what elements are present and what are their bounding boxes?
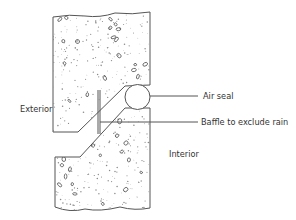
concrete-speck [121,104,122,105]
concrete-speck [104,146,105,147]
concrete-speck [60,14,61,15]
concrete-speck [94,138,95,139]
concrete-speck [80,191,81,192]
concrete-speck [90,168,91,169]
concrete-speck [90,163,91,164]
concrete-speck [123,202,124,203]
concrete-speck [100,161,101,162]
concrete-speck [73,59,74,60]
concrete-speck [53,87,54,88]
concrete-speck [113,42,114,43]
concrete-speck [147,21,148,22]
concrete-speck [68,155,70,157]
concrete-speck [130,136,132,138]
concrete-speck [127,181,128,182]
concrete-speck [108,180,109,181]
concrete-speck [93,163,94,164]
concrete-speck [136,162,137,163]
concrete-speck [62,138,63,139]
concrete-speck [118,55,119,56]
concrete-speck [60,124,61,125]
concrete-speck [118,144,119,145]
concrete-speck [126,20,127,21]
concrete-speck [65,13,66,14]
concrete-speck [53,55,54,56]
concrete-speck [60,118,61,119]
concrete-speck [139,53,140,54]
concrete-speck [59,172,60,173]
concrete-speck [129,143,130,144]
concrete-speck [121,105,122,106]
concrete-speck [108,208,109,209]
concrete-speck [62,106,64,108]
concrete-speck [118,18,119,19]
concrete-speck [89,129,90,130]
concrete-speck [75,48,76,49]
concrete-speck [124,52,126,54]
concrete-speck [114,193,116,195]
concrete-speck [142,116,143,117]
concrete-speck [101,119,102,120]
concrete-speck [123,24,124,25]
concrete-speck [57,56,58,57]
concrete-speck [61,207,62,208]
concrete-speck [87,174,88,175]
concrete-speck [147,149,148,150]
concrete-speck [69,45,70,46]
concrete-speck [137,167,138,168]
concrete-speck [109,27,110,28]
concrete-speck [127,54,128,55]
concrete-speck [64,51,65,52]
concrete-speck [95,189,96,190]
concrete-speck [130,145,131,146]
concrete-speck [124,44,126,46]
concrete-speck [116,171,117,172]
concrete-speck [148,44,149,45]
concrete-speck [140,79,141,80]
concrete-speck [148,164,149,165]
concrete-speck [66,136,67,137]
concrete-speck [106,165,108,167]
concrete-speck [62,88,64,90]
concrete-speck [67,97,68,98]
concrete-speck [146,133,147,134]
concrete-speck [57,192,58,193]
concrete-speck [107,71,108,72]
concrete-speck [91,44,92,45]
concrete-speck [74,59,75,60]
concrete-speck [76,18,77,19]
concrete-speck [130,188,131,189]
concrete-speck [125,89,126,90]
concrete-speck [101,176,102,177]
concrete-speck [105,93,106,94]
concrete-speck [98,174,99,175]
concrete-speck [75,101,76,102]
concrete-speck [125,106,126,107]
concrete-speck [113,113,114,114]
concrete-speck [137,146,138,147]
concrete-speck [62,117,63,118]
concrete-speck [126,23,127,24]
concrete-speck [68,12,69,13]
concrete-speck [133,33,134,34]
concrete-speck [76,32,77,33]
concrete-speck [66,203,67,204]
concrete-speck [118,99,120,101]
concrete-speck [87,128,88,129]
concrete-speck [144,142,145,143]
concrete-speck [116,135,117,136]
concrete-speck [140,44,141,45]
concrete-speck [90,34,91,35]
concrete-speck [98,47,100,49]
concrete-speck [63,69,64,70]
concrete-speck [98,65,99,66]
concrete-speck [141,180,142,181]
concrete-speck [101,88,102,89]
concrete-speck [148,123,149,124]
concrete-speck [148,69,150,71]
concrete-speck [92,49,93,50]
concrete-speck [148,142,150,144]
concrete-speck [56,194,57,195]
concrete-speck [76,99,77,100]
concrete-speck [74,187,75,188]
